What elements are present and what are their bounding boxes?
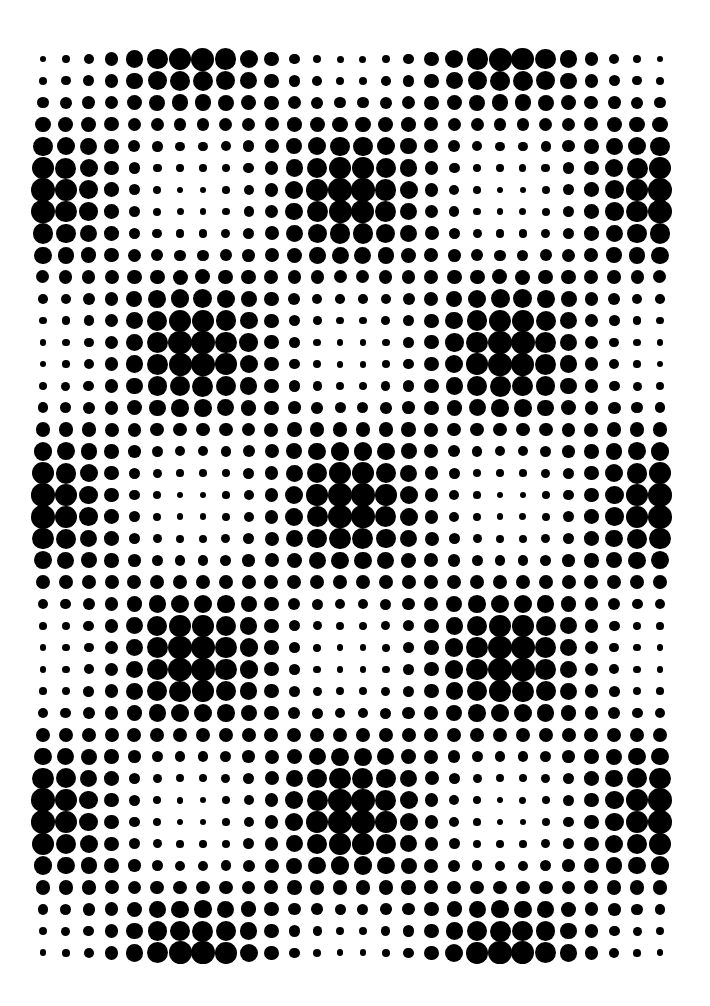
halftone-dot: [240, 944, 258, 962]
halftone-dot: [584, 509, 599, 524]
halftone-dot: [585, 641, 599, 655]
halftone-dot: [84, 359, 94, 369]
halftone-dot: [357, 904, 368, 915]
halftone-dot: [655, 294, 665, 304]
halftone-dot: [265, 532, 279, 546]
halftone-dot: [244, 795, 254, 805]
halftone-dot: [351, 505, 374, 528]
halftone-dot: [337, 666, 344, 673]
halftone-dot: [240, 377, 257, 394]
halftone-dot: [519, 513, 526, 520]
halftone-dot: [648, 178, 672, 202]
halftone-dot: [243, 140, 255, 152]
halftone-dot: [584, 204, 599, 219]
halftone-dot: [633, 949, 641, 957]
halftone-dot: [150, 575, 164, 589]
halftone-dot: [466, 659, 488, 681]
halftone-dot: [538, 270, 553, 285]
halftone-dot: [356, 575, 370, 589]
halftone-dot: [608, 707, 620, 719]
halftone-dot: [336, 77, 345, 86]
halftone-dot: [126, 661, 144, 679]
halftone-dot: [467, 921, 487, 941]
halftone-dot: [605, 464, 623, 482]
halftone-dot: [216, 376, 236, 396]
halftone-dot: [104, 466, 119, 481]
halftone-dot: [62, 666, 70, 674]
halftone-dot: [336, 927, 344, 935]
halftone-dot: [541, 534, 550, 543]
halftone-dot: [561, 400, 576, 415]
halftone-dot: [488, 353, 511, 376]
halftone-dot: [105, 575, 119, 589]
halftone-dot: [540, 446, 551, 457]
halftone-dot: [424, 379, 438, 393]
halftone-dot: [631, 97, 643, 109]
halftone-dot: [129, 795, 140, 806]
halftone-dot: [357, 97, 369, 109]
halftone-dot: [380, 708, 391, 719]
halftone-dot: [519, 229, 528, 238]
halftone-dot: [469, 95, 485, 111]
halftone-dot: [401, 749, 417, 765]
halftone-dot: [62, 687, 71, 696]
halftone-dot: [61, 76, 70, 85]
halftone-dot: [496, 164, 503, 171]
halftone-dot: [514, 399, 532, 417]
halftone-dot: [378, 117, 393, 132]
halftone-dot: [535, 659, 556, 680]
halftone-dot: [264, 619, 278, 633]
halftone-dot: [285, 813, 303, 831]
halftone-dot: [402, 96, 415, 109]
halftone-dot: [469, 399, 486, 416]
halftone-dot: [81, 552, 97, 568]
halftone-dot: [656, 317, 663, 324]
halftone-dot: [333, 728, 347, 742]
halftone-dot: [473, 469, 482, 478]
halftone-dot: [175, 751, 186, 762]
halftone-dot: [104, 531, 119, 546]
halftone-dot: [449, 490, 459, 500]
halftone-dot: [128, 881, 142, 895]
halftone-dot: [34, 247, 51, 264]
halftone-dot: [196, 728, 210, 742]
halftone-dot: [287, 728, 301, 742]
halftone-dot: [313, 926, 322, 935]
halftone-dot: [265, 466, 279, 480]
halftone-dot: [649, 768, 670, 789]
halftone-dot: [609, 54, 619, 64]
halftone-dot: [265, 771, 279, 785]
halftone-dot: [537, 400, 554, 417]
halftone-dot: [651, 247, 668, 264]
halftone-dot: [446, 682, 464, 700]
halftone-dot: [633, 382, 642, 391]
halftone-dot: [128, 249, 141, 262]
halftone-dot: [382, 339, 390, 347]
halftone-dot: [470, 881, 484, 895]
halftone-dot: [424, 750, 438, 764]
halftone-dot: [307, 529, 327, 549]
halftone-dot: [649, 528, 670, 549]
halftone-dot: [425, 510, 439, 524]
halftone-dot: [200, 187, 207, 194]
halftone-dot: [147, 681, 167, 701]
halftone-dot: [288, 270, 302, 284]
halftone-dot: [511, 353, 534, 376]
halftone-dot: [289, 380, 300, 391]
halftone-dot: [491, 900, 509, 918]
halftone-dot: [84, 948, 94, 958]
halftone-dot: [152, 141, 163, 152]
halftone-dot: [79, 202, 98, 221]
halftone-dot: [285, 181, 303, 199]
halftone-dot: [382, 55, 390, 63]
halftone-dot: [400, 225, 417, 242]
halftone-dot: [648, 810, 672, 834]
halftone-dot: [333, 575, 347, 589]
halftone-dot: [40, 361, 47, 368]
halftone-dot: [241, 901, 257, 917]
halftone-dot: [171, 901, 189, 919]
halftone-dot: [540, 249, 552, 261]
halftone-dot: [446, 922, 463, 939]
halftone-dot: [287, 880, 301, 894]
halftone-dot: [518, 861, 528, 871]
